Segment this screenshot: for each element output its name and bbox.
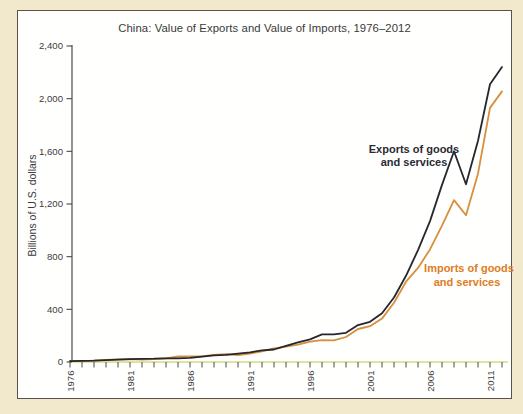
imports-line [70, 91, 502, 361]
y-tick-label: 2,000 [39, 93, 63, 104]
y-tick-label: 800 [47, 251, 63, 262]
x-tick-label: 1976 [65, 371, 76, 392]
exports-line [70, 67, 502, 361]
exports-series-label-line2: and services [381, 156, 448, 168]
figure: { "title": "China: Value of Exports and … [0, 0, 523, 414]
x-tick-label: 1986 [185, 371, 196, 392]
x-tick-label: 2006 [425, 371, 436, 392]
x-tick-label: 2001 [365, 371, 376, 392]
imports-series-label-line1: Imports of goods [424, 262, 514, 274]
exports-series-label-line1: Exports of goods [369, 143, 459, 155]
x-tick-label: 1996 [305, 371, 316, 392]
y-axis-ticks: 04008001,2001,6002,0002,400 [39, 40, 72, 367]
y-tick-label: 400 [47, 304, 63, 315]
imports-series-label-line2: and services [434, 276, 501, 288]
y-tick-label: 1,200 [39, 198, 63, 209]
x-tick-label: 1991 [245, 371, 256, 392]
y-tick-label: 2,400 [39, 40, 63, 51]
x-tick-label: 2011 [485, 371, 496, 392]
x-tick-label: 1981 [125, 371, 136, 392]
y-tick-label: 0 [58, 356, 63, 367]
x-axis-ticks: 19761981198619911996200120062011 [65, 362, 503, 392]
chart-canvas: 04008001,2001,6002,0002,400 197619811986… [0, 0, 523, 414]
y-tick-label: 1,600 [39, 146, 63, 157]
